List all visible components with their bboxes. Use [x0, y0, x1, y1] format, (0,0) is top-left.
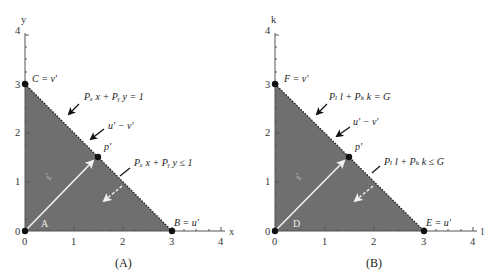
x-axis-label: l [481, 226, 484, 237]
x-tick-4: 4 [470, 236, 476, 247]
label-f: F = v' [283, 73, 309, 84]
point-e [421, 228, 427, 234]
x-axis-label: x [229, 226, 235, 237]
panel-a: 4 3 2 1 0 0 1 2 3 4 y x z' A C = v' B = … [15, 14, 235, 270]
segment-arrow [91, 129, 104, 139]
x-tick-3: 3 [169, 236, 174, 247]
y-tick-4: 4 [265, 25, 271, 36]
region-arrow [372, 166, 380, 173]
label-p: p' [354, 141, 363, 152]
region-inequality: Pₗ l + Pₖ k ≤ G [383, 156, 444, 167]
y-tick-0: 0 [265, 226, 270, 237]
point-p [346, 154, 352, 160]
segment-label: u' − v' [108, 120, 134, 131]
y-tick-1: 1 [265, 176, 270, 187]
label-b: B = u' [174, 217, 200, 228]
figure: 4 3 2 1 0 0 1 2 3 4 y x z' A C = v' B = … [0, 0, 497, 278]
panel-a-caption: (A) [115, 256, 132, 270]
panel-b-caption: (B) [366, 256, 382, 270]
point-p [95, 154, 101, 160]
x-tick-3: 3 [421, 236, 426, 247]
x-tick-2: 2 [371, 236, 376, 247]
label-c: C = v' [32, 73, 58, 84]
y-axis-label: k [271, 14, 277, 25]
panel-b: 4 3 2 1 0 0 1 2 3 4 k l z' D F = v' E = … [265, 14, 484, 270]
line-eq-arrow [317, 104, 327, 114]
line-equation: Pₓ x + Pᵧ y = 1 [83, 91, 144, 102]
x-tick-0: 0 [272, 236, 277, 247]
point-f [272, 81, 278, 87]
point-c [22, 81, 28, 87]
x-tick-2: 2 [120, 236, 125, 247]
x-tick-0: 0 [22, 236, 27, 247]
x-tick-1: 1 [322, 236, 327, 247]
y-tick-0: 0 [15, 226, 20, 237]
y-tick-1: 1 [15, 176, 20, 187]
y-axis-label: y [21, 14, 27, 25]
label-p: p' [103, 141, 112, 152]
x-tick-1: 1 [71, 236, 76, 247]
segment-arrow [337, 127, 350, 136]
point-d [272, 228, 278, 234]
y-tick-3: 3 [265, 79, 270, 90]
y-tick-4: 4 [15, 25, 21, 36]
point-a [22, 228, 28, 234]
line-eq-arrow [69, 104, 79, 114]
y-tick-2: 2 [15, 127, 20, 138]
y-tick-3: 3 [15, 79, 20, 90]
origin-label: D [293, 218, 300, 229]
region-arrow [120, 168, 130, 176]
x-tick-4: 4 [218, 236, 224, 247]
origin-label: A [41, 218, 49, 229]
label-e: E = u' [425, 217, 452, 228]
region-inequality: Pₓ x + Pᵧ y ≤ 1 [133, 157, 192, 168]
segment-label: u' − v' [353, 116, 379, 127]
line-equation: Pₗ l + Pₖ k = G [328, 91, 390, 102]
y-tick-2: 2 [265, 127, 270, 138]
point-b [169, 228, 175, 234]
